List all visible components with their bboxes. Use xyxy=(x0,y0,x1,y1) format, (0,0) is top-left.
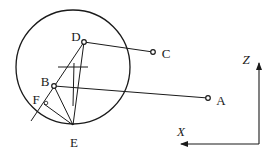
point-c-marker xyxy=(151,50,156,55)
label-e: E xyxy=(70,136,78,149)
line-d-b-extended xyxy=(31,42,84,121)
label-a: A xyxy=(216,94,225,107)
cross-vertical-line xyxy=(73,63,74,106)
line-b-e xyxy=(54,86,73,125)
right-angle-marker-f xyxy=(44,101,48,105)
label-b: B xyxy=(41,75,50,88)
point-d-marker xyxy=(82,40,87,45)
label-d: D xyxy=(71,30,80,43)
label-z-axis: Z xyxy=(242,53,249,66)
point-a-marker xyxy=(206,96,211,101)
label-f: F xyxy=(32,93,39,106)
label-x-axis: X xyxy=(177,125,185,138)
line-d-c xyxy=(84,42,153,52)
point-b-marker xyxy=(52,84,57,89)
line-d-e xyxy=(73,42,84,125)
label-c: C xyxy=(162,47,171,60)
